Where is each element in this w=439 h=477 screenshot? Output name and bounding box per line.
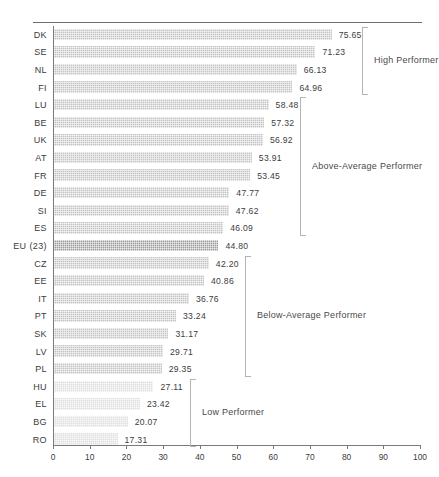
bar-row: PL29.35	[53, 360, 420, 378]
bar	[54, 64, 297, 76]
category-label: DE	[34, 188, 47, 198]
category-label: SE	[34, 47, 47, 57]
category-label: PT	[35, 311, 47, 321]
category-label: NL	[35, 65, 47, 75]
bar	[54, 328, 168, 340]
bracket-label-above-average-performer: Above-Average Performer	[312, 161, 422, 171]
x-axis-tick	[163, 445, 164, 449]
bar	[54, 363, 162, 375]
x-axis-tick	[310, 445, 311, 449]
bar	[54, 240, 218, 252]
bar-value-label: 27.11	[160, 382, 182, 392]
bar-row: ES46.09	[53, 220, 420, 238]
bracket-label-low-performer: Low Performer	[202, 407, 264, 417]
category-label: BE	[34, 118, 47, 128]
bar	[54, 222, 223, 234]
x-axis-tick-label: 20	[122, 452, 131, 462]
bar-value-label: 57.32	[271, 118, 294, 128]
x-axis-tick-label: 0	[51, 452, 56, 462]
bar-row: LU58.48	[53, 96, 420, 114]
bar	[54, 152, 252, 164]
bracket-low-performer	[190, 379, 196, 447]
category-label: RO	[33, 435, 47, 445]
category-label: EU (23)	[13, 241, 47, 251]
bar-value-label: 71.23	[322, 47, 345, 57]
bar-row: EE40.86	[53, 272, 420, 290]
caption-ghost: · · · · ·· · · ·	[135, 466, 385, 473]
bar-row: BE57.32	[53, 114, 420, 132]
bracket-high-performer	[362, 27, 368, 95]
x-axis-tick	[53, 445, 54, 449]
bar	[54, 275, 204, 287]
bar-value-label: 40.86	[211, 276, 234, 286]
bar-value-label: 29.71	[170, 347, 193, 357]
category-label: BG	[33, 417, 47, 427]
category-label: SI	[38, 206, 47, 216]
bar-value-label: 47.62	[236, 206, 259, 216]
category-label: AT	[35, 153, 47, 163]
x-axis-tick	[90, 445, 91, 449]
bar-value-label: 17.31	[125, 435, 148, 445]
bar-value-label: 64.96	[299, 83, 322, 93]
category-label: ES	[34, 223, 47, 233]
x-axis-tick	[347, 445, 348, 449]
bar	[54, 416, 128, 428]
bar-row: SI47.62	[53, 202, 420, 220]
bar-row: HU27.11	[53, 378, 420, 396]
x-axis-tick-label: 70	[305, 452, 314, 462]
bar	[54, 310, 176, 322]
x-axis-tick	[273, 445, 274, 449]
bar	[54, 29, 332, 41]
x-axis-tick-label: 50	[232, 452, 241, 462]
bar	[54, 99, 269, 111]
bar-row: CZ42.20	[53, 255, 420, 273]
bracket-label-below-average-performer: Below-Average Performer	[257, 310, 366, 320]
bar-value-label: 66.13	[304, 65, 327, 75]
bracket-above-average-performer	[300, 97, 306, 236]
bar	[54, 169, 250, 181]
bar-value-label: 46.09	[230, 223, 253, 233]
category-label: SK	[34, 329, 47, 339]
x-axis-tick	[237, 445, 238, 449]
bar-value-label: 53.45	[257, 171, 280, 181]
bracket-below-average-performer	[245, 256, 251, 377]
bar-value-label: 47.77	[236, 188, 259, 198]
bar	[54, 257, 209, 269]
bar-value-label: 33.24	[183, 311, 206, 321]
bar-value-label: 36.76	[196, 294, 219, 304]
bar-value-label: 56.92	[270, 135, 293, 145]
x-axis-tick-label: 40	[195, 452, 204, 462]
bar	[54, 187, 229, 199]
category-label: FR	[34, 171, 47, 181]
category-label: IT	[38, 294, 47, 304]
category-label: EE	[34, 276, 47, 286]
x-axis-tick	[383, 445, 384, 449]
category-label: FI	[38, 83, 47, 93]
x-axis-tick	[200, 445, 201, 449]
bar-row: UK56.92	[53, 132, 420, 150]
bar	[54, 81, 292, 93]
category-label: LV	[36, 347, 47, 357]
category-label: LU	[35, 100, 47, 110]
bar	[54, 345, 163, 357]
category-label: CZ	[34, 259, 47, 269]
category-label: UK	[34, 135, 47, 145]
bar-row: EU (23)44.80	[53, 237, 420, 255]
bar-value-label: 53.91	[259, 153, 282, 163]
bar-value-label: 44.80	[225, 241, 248, 251]
bracket-label-high-performer: High Performer	[374, 55, 439, 65]
bar	[54, 398, 140, 410]
top-rule	[33, 22, 422, 23]
bar-value-label: 58.48	[276, 100, 299, 110]
x-axis-tick	[420, 445, 421, 449]
bar-value-label: 23.42	[147, 399, 170, 409]
bar-row: DE47.77	[53, 184, 420, 202]
bar-value-label: 20.07	[135, 417, 158, 427]
category-label: HU	[33, 382, 47, 392]
x-axis-tick	[126, 445, 127, 449]
x-axis-tick-label: 100	[413, 452, 427, 462]
x-axis-tick-label: 10	[85, 452, 94, 462]
x-axis-tick-label: 30	[158, 452, 167, 462]
x-axis-tick-label: 90	[379, 452, 388, 462]
